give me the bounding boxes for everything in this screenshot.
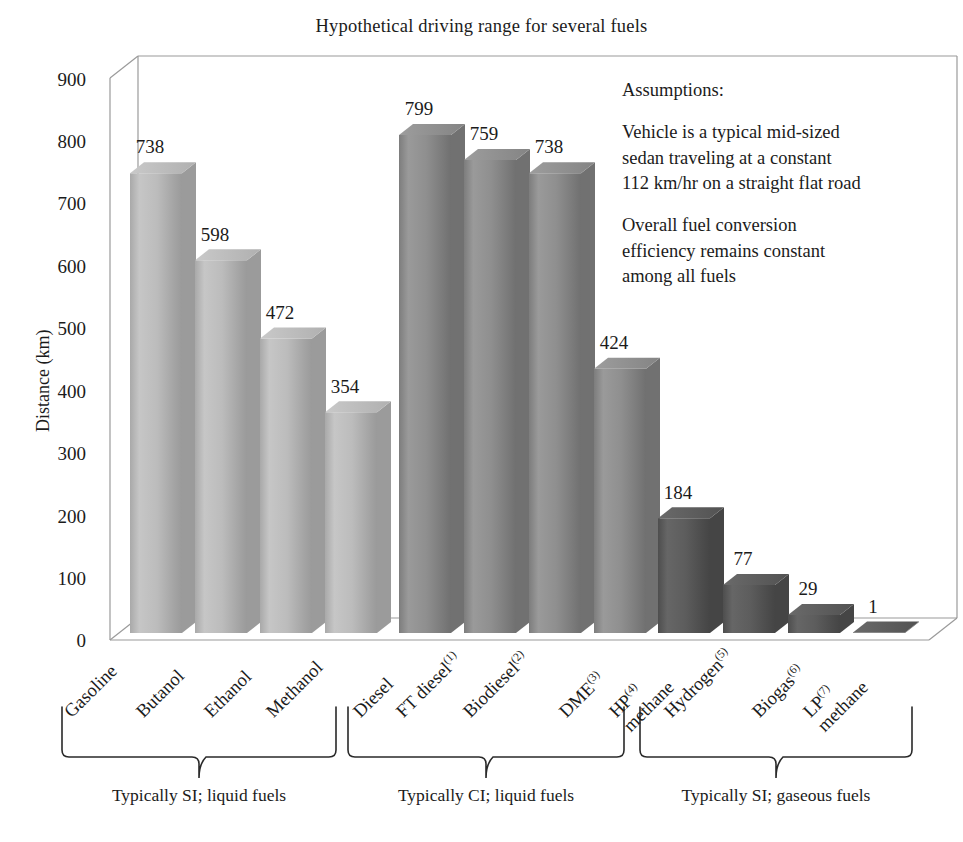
x-label-biodiesel[interactable]: Biodiesel(2) — [460, 649, 533, 722]
x-label-hydrogen[interactable]: Hydrogen(5) — [661, 646, 737, 722]
x-label-text: Butanol — [132, 666, 188, 722]
y-tick-100: 100 — [24, 569, 86, 588]
y-tick-700: 700 — [24, 194, 86, 213]
y-tick-0: 0 — [24, 631, 86, 650]
group-label-si-liquid: Typically SI; liquid fuels — [79, 785, 319, 806]
x-label-diesel[interactable]: Diesel — [350, 675, 398, 723]
bar-methanol[interactable] — [325, 401, 391, 633]
assumptions-block: Assumptions: Vehicle is a typical mid-si… — [622, 78, 932, 289]
x-label-lp-methane[interactable]: LP(7)methane — [800, 664, 873, 737]
y-tick-300: 300 — [24, 444, 86, 463]
assumptions-heading: Assumptions: — [622, 78, 932, 103]
chart-title: Hypothetical driving range for several f… — [0, 16, 963, 37]
x-label-ethanol[interactable]: Ethanol — [201, 667, 256, 722]
assumptions-p2-line3: among all fuels — [622, 264, 932, 289]
bar-value-gasoline: 738 — [118, 137, 182, 156]
x-label-gasoline[interactable]: Gasoline — [61, 661, 122, 722]
bar-value-biodiesel: 738 — [517, 137, 581, 156]
group-label-ci-liquid: Typically CI; liquid fuels — [366, 785, 606, 806]
assumptions-paragraph-1: Vehicle is a typical mid-sized sedan tra… — [622, 120, 932, 196]
y-tick-600: 600 — [24, 257, 86, 276]
group-label-si-gaseous: Typically SI; gaseous fuels — [650, 785, 902, 806]
bar-value-hp-methane: 184 — [646, 483, 710, 502]
x-label-biogas[interactable]: Biogas(6) — [749, 662, 809, 722]
bar-biodiesel[interactable] — [529, 162, 595, 633]
x-label-text: Diesel — [349, 674, 397, 722]
bar-value-butanol: 598 — [183, 225, 247, 244]
bar-value-dme: 424 — [582, 333, 646, 352]
bar-value-hydrogen: 77 — [711, 549, 775, 568]
bar-value-ethanol: 472 — [248, 303, 312, 322]
x-label-text: Biodiesel — [459, 658, 523, 722]
bar-value-methanol: 354 — [313, 377, 377, 396]
assumptions-p1-line2: sedan traveling at a constant — [622, 146, 932, 171]
x-label-methanol[interactable]: Methanol — [263, 658, 327, 722]
bar-ethanol[interactable] — [260, 328, 326, 633]
bar-value-lp-methane: 1 — [841, 597, 905, 616]
x-label-text: Ethanol — [200, 667, 255, 722]
bar-value-ft-diesel: 759 — [452, 124, 516, 143]
chart-figure: Hypothetical driving range for several f… — [0, 0, 963, 842]
x-label-text: Gasoline — [60, 661, 121, 722]
y-tick-400: 400 — [24, 382, 86, 401]
x-label-dme[interactable]: DME(3) — [556, 669, 609, 722]
bar-diesel[interactable] — [399, 124, 465, 633]
group-brackets — [62, 707, 912, 778]
bar-lp-methane[interactable] — [853, 621, 919, 633]
x-label-butanol[interactable]: Butanol — [133, 667, 189, 723]
assumptions-p2-line1: Overall fuel conversion — [622, 213, 932, 238]
assumptions-paragraph-2: Overall fuel conversion efficiency remai… — [622, 213, 932, 289]
assumptions-p2-line2: efficiency remains constant — [622, 239, 932, 264]
bar-hp-methane[interactable] — [658, 507, 724, 633]
bar-ft-diesel[interactable] — [464, 149, 530, 633]
y-axis-title: Distance (km) — [33, 330, 54, 432]
assumptions-p1-line3: 112 km/hr on a straight flat road — [622, 171, 932, 196]
y-tick-500: 500 — [24, 319, 86, 338]
y-tick-200: 200 — [24, 507, 86, 526]
x-label-ft-diesel[interactable]: FT diesel(1) — [393, 650, 465, 722]
assumptions-p1-line1: Vehicle is a typical mid-sized — [622, 120, 932, 145]
x-label-text: Methanol — [262, 657, 326, 721]
bar-value-diesel: 799 — [387, 99, 451, 118]
bar-value-biogas: 29 — [776, 579, 840, 598]
x-label-text: FT diesel — [392, 658, 455, 721]
y-tick-800: 800 — [24, 132, 86, 151]
y-tick-900: 900 — [24, 70, 86, 89]
